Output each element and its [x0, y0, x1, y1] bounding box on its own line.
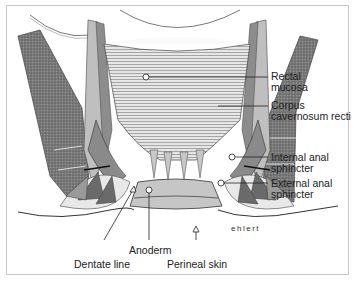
label-rectal-mucosa: Rectal mucosa: [271, 71, 308, 93]
label-line: sphincter: [271, 189, 332, 200]
marker-external-sphincter: [218, 180, 224, 186]
left-external-muscle: [18, 30, 90, 198]
arc-top: [120, 10, 240, 28]
label-perineal-skin: Perineal skin: [167, 259, 227, 270]
rectal-mucosa-region: [104, 44, 250, 160]
artist-signature: ehlert: [231, 224, 260, 233]
label-anoderm: Anoderm: [129, 245, 172, 256]
label-corpus-cavernosum: Corpus cavernosum recti: [271, 100, 351, 122]
label-line: mucosa: [271, 82, 308, 93]
label-internal-sphincter: Internal anal sphincter: [271, 152, 329, 174]
marker-rectal-mucosa: [143, 74, 149, 80]
label-line: sphincter: [271, 163, 329, 174]
marker-anoderm: [146, 187, 152, 193]
anorectal-anatomy-illustration: [0, 0, 354, 282]
label-external-sphincter: External anal sphincter: [271, 178, 332, 200]
label-line: cavernosum recti: [271, 111, 351, 122]
anoderm-region: [130, 179, 222, 209]
label-dentate-line: Dentate line: [74, 259, 130, 270]
marker-internal-sphincter: [229, 154, 235, 160]
